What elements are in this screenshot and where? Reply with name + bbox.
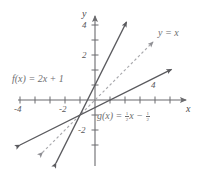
function-g-minus-sign: − bbox=[136, 110, 143, 121]
x-tick-label-neg4: -4 bbox=[14, 104, 22, 114]
x-tick-label-pos4: 4 bbox=[151, 80, 156, 90]
y-tick-label-pos2: 2 bbox=[82, 50, 87, 60]
x-axis-label: x bbox=[186, 103, 190, 114]
function-g-constant-fraction: 12 bbox=[146, 111, 151, 122]
graph-figure: y x -4 -2 4 4 2 -2 f(x) = 2x + 1 g(x) = … bbox=[0, 0, 201, 171]
function-f-line bbox=[56, 22, 127, 163]
function-g-variable: x bbox=[129, 110, 133, 121]
function-f-label: f(x) = 2x + 1 bbox=[12, 73, 64, 84]
function-g-label: g(x) = 12x − 12 bbox=[97, 110, 150, 122]
x-axis bbox=[18, 97, 186, 104]
x-tick-label-neg2: -2 bbox=[59, 104, 67, 114]
identity-line-label: y = x bbox=[158, 27, 179, 38]
y-tick-label-pos4: 4 bbox=[82, 20, 87, 30]
function-g-label-lead: g(x) = bbox=[97, 110, 125, 121]
identity-line bbox=[43, 42, 154, 153]
function-g-coefficient-fraction: 12 bbox=[125, 111, 130, 122]
y-tick-label-neg2: -2 bbox=[78, 125, 86, 135]
y-axis-label: y bbox=[82, 8, 86, 19]
coordinate-plane-svg bbox=[0, 0, 201, 171]
